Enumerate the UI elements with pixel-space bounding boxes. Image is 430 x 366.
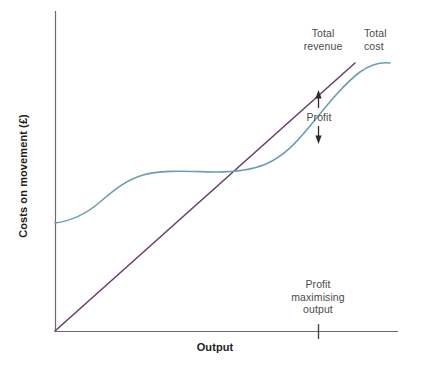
annotation-label-profit: Profit [296, 111, 342, 124]
series-label-total-cost: Total cost [364, 27, 424, 52]
profit-arrowhead-down [315, 136, 321, 145]
y-axis-title-text: Costs on movement (£) [17, 114, 29, 238]
x-axis-title-text: Output [197, 341, 234, 353]
x-axis-title: Output [0, 341, 430, 353]
series-label-total-revenue: Total revenue [292, 27, 354, 52]
total-cost-curve [55, 63, 390, 223]
chart-figure: Costs on movement (£) Output Total reven… [0, 0, 430, 366]
y-axis-title: Costs on movement (£) [14, 96, 32, 256]
annotation-label-profit-maximising-output: Profit maximising output [278, 278, 358, 316]
chart-plot-area [0, 0, 430, 366]
